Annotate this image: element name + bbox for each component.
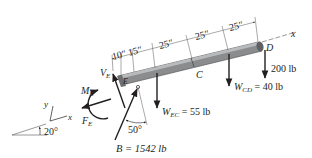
shear-VE-label: VE <box>100 67 111 80</box>
point-C-label: C <box>196 69 203 80</box>
beam-axis-label: x <box>290 28 296 39</box>
dim-25-b: 25″ <box>194 28 210 42</box>
dim-25-a: 25″ <box>158 37 174 51</box>
dim-15: 15″ <box>127 44 143 58</box>
point-E-label: E <box>122 77 128 86</box>
dim-10: 10″ <box>111 48 127 62</box>
dim-25-c: 25″ <box>228 19 244 33</box>
angle-50-label: 50° <box>128 124 142 135</box>
load-200lb-label: 200 lb <box>271 63 296 74</box>
incline-angle-indicator <box>12 124 47 135</box>
point-D-label: D <box>265 42 274 53</box>
angle-50-arc <box>126 120 146 123</box>
angle-reference-line <box>138 87 147 125</box>
reaction-B-label: B = 1542 lb <box>116 143 167 154</box>
free-body-diagram: 10″ 15″ 25″ 25″ 25″ x E C D 200 lb WCD =… <box>0 0 312 158</box>
weight-CD-label: WCD = 40 lb <box>234 81 283 94</box>
axial-FE-arrow <box>82 99 111 108</box>
axial-FE-label: FE <box>81 115 93 128</box>
y-axis-label: y <box>43 99 48 109</box>
weight-EC-label: WEC = 55 lb <box>162 106 210 119</box>
incline-angle-label: 20° <box>44 126 58 137</box>
coordinate-axes <box>50 106 67 121</box>
x-axis-label: x <box>67 112 72 122</box>
moment-ME-label: ME <box>80 85 94 98</box>
